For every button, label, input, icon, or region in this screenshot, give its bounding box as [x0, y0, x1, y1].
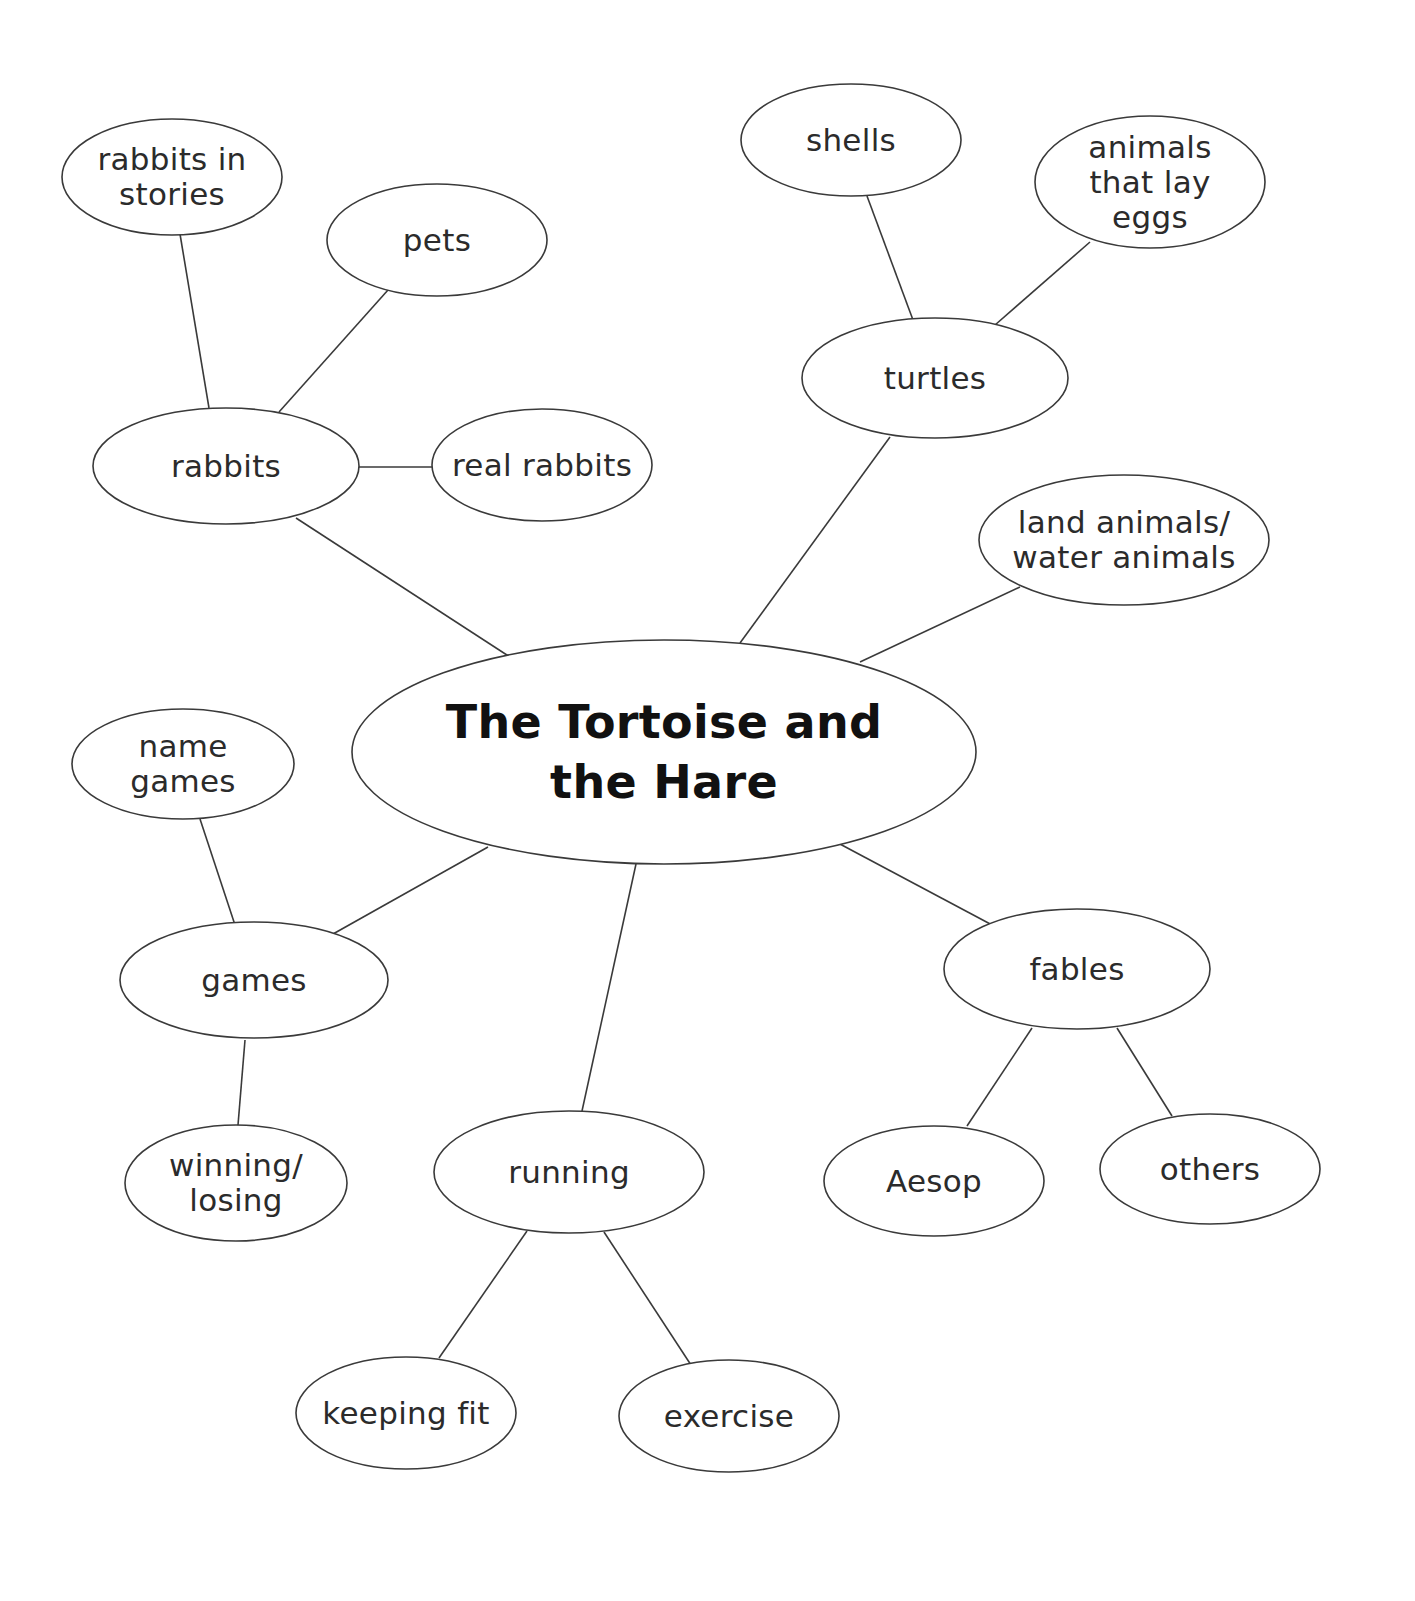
connector-running-to-exercise: [604, 1232, 691, 1365]
connector-turtles-to-animals-that-lay-eggs: [995, 242, 1090, 325]
node-land-water-animals-oval: [979, 475, 1269, 605]
node-keeping-fit-oval: [296, 1357, 516, 1469]
node-turtles-oval: [802, 318, 1068, 438]
connector-turtles-to-shells: [867, 196, 913, 320]
node-fables-oval: [944, 909, 1210, 1029]
connector-central-to-running: [582, 864, 636, 1111]
mind-map-canvas: [0, 0, 1415, 1601]
connector-central-to-games: [333, 847, 488, 934]
node-animals-that-lay-eggs-oval: [1035, 116, 1265, 248]
node-exercise-oval: [619, 1360, 839, 1472]
node-pets-oval: [327, 184, 547, 296]
connector-fables-to-others: [1117, 1028, 1172, 1116]
connector-central-to-fables: [838, 843, 994, 926]
connector-rabbits-to-rabbits-in-stories: [180, 234, 209, 408]
connector-running-to-keeping-fit: [439, 1231, 527, 1358]
central-topic-oval: [352, 640, 976, 864]
node-games-oval: [120, 922, 388, 1038]
connector-central-to-rabbits: [296, 518, 510, 657]
node-shells-oval: [741, 84, 961, 196]
connector-fables-to-aesop: [967, 1028, 1032, 1126]
node-rabbits-in-stories-oval: [62, 119, 282, 235]
node-ovals: [62, 84, 1320, 1472]
node-aesop-oval: [824, 1126, 1044, 1236]
node-name-games-oval: [72, 709, 294, 819]
node-real-rabbits-oval: [432, 409, 652, 521]
connector-games-to-winning-losing: [238, 1040, 245, 1125]
node-winning-losing-oval: [125, 1125, 347, 1241]
node-others-oval: [1100, 1114, 1320, 1224]
connector-central-to-turtles: [740, 437, 890, 643]
connector-games-to-name-games: [200, 819, 235, 925]
node-running-oval: [434, 1111, 704, 1233]
connector-central-to-land-water-animals: [860, 587, 1020, 662]
connector-rabbits-to-pets: [279, 290, 388, 412]
node-rabbits-oval: [93, 408, 359, 524]
